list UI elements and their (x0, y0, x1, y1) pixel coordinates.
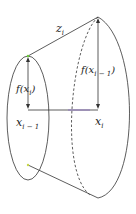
bottom-slant-line (28, 165, 98, 198)
accent-point (27, 55, 29, 57)
slant-label: zi (55, 22, 64, 37)
frustum-diagram: zi f(xi) f(xi − 1) xi − 1 xi (0, 0, 136, 214)
small-radius-label: f(xi) (15, 83, 36, 97)
large-ellipse-front (98, 17, 130, 198)
arrow-head-up-icon (26, 57, 30, 62)
x-right-label: xi (95, 115, 103, 130)
arrow-head-down-icon (26, 104, 30, 109)
accent-point (27, 164, 29, 166)
x-left-label: xi − 1 (16, 116, 39, 131)
large-ellipse-back (71, 17, 98, 195)
arrow-head-down-icon (96, 104, 100, 109)
